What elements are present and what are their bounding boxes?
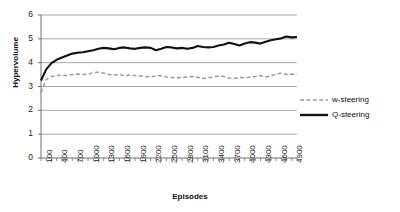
legend-label: Q-steering	[332, 110, 369, 119]
x-tick-label: 100	[45, 150, 54, 163]
legend-swatch-w-steering	[300, 96, 328, 104]
legend-item[interactable]: Q-steering	[300, 107, 398, 122]
x-tick-label: 4600	[280, 145, 289, 163]
x-axis-title: Episodes	[145, 192, 235, 201]
chart-legend: w-steeringQ-steering	[300, 92, 398, 122]
x-tick-label: 1300	[107, 145, 116, 163]
x-tick-label: 2800	[186, 145, 195, 163]
y-tick-label: 5	[17, 33, 33, 43]
x-tick-label: 2500	[170, 145, 179, 163]
x-tick-label: 3400	[217, 145, 226, 163]
y-tick-label: 1	[17, 128, 33, 138]
x-tick-label: 4900	[295, 145, 304, 163]
x-tick-label: 700	[76, 150, 85, 163]
hypervolume-line-chart: Hypervolume Episodes 0123456 10040070010…	[0, 0, 400, 212]
y-tick-label: 6	[17, 9, 33, 19]
legend-label: w-steering	[332, 95, 369, 104]
y-tick-label: 3	[17, 81, 33, 91]
x-tick-label: 1000	[92, 145, 101, 163]
x-tick-label: 4000	[248, 145, 257, 163]
y-tick-label: 4	[17, 57, 33, 67]
legend-swatch-Q-steering	[300, 111, 328, 119]
x-tick-label: 1600	[123, 145, 132, 163]
series-line-w-steering	[41, 72, 297, 92]
legend-item[interactable]: w-steering	[300, 92, 398, 107]
x-tick-label: 3700	[233, 145, 242, 163]
x-tick-label: 4300	[264, 145, 273, 163]
x-tick-label: 3100	[201, 145, 210, 163]
y-tick-label: 0	[17, 152, 33, 162]
y-tick-label: 2	[17, 104, 33, 114]
x-tick-label: 1900	[139, 145, 148, 163]
x-tick-label: 400	[60, 150, 69, 163]
x-tick-label: 2200	[154, 145, 163, 163]
